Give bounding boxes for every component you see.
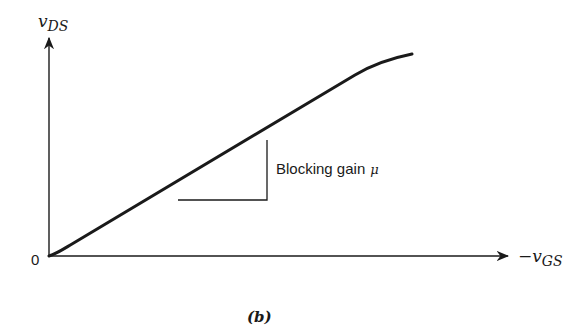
figure-caption: (b) <box>247 308 272 326</box>
blocking-gain-annotation: Blocking gainμ <box>276 160 379 177</box>
slope-triangle <box>178 140 267 200</box>
origin-label: 0 <box>31 251 39 268</box>
x-axis-label: −vGS <box>518 246 563 269</box>
y-axis-label: vDS <box>38 11 68 34</box>
diagram-canvas: vDS −vGS 0 Blocking gainμ (b) <box>0 0 585 335</box>
characteristic-curve <box>49 54 412 256</box>
